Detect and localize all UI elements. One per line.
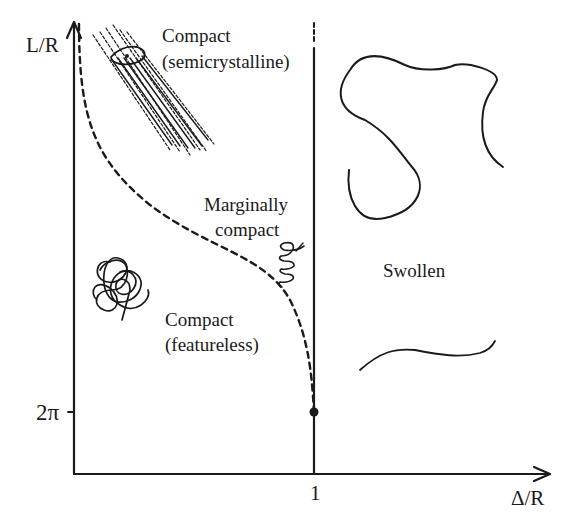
label-compact-featureless: Compact (featureless) (165, 309, 259, 356)
y-tick-label: 2π (36, 400, 60, 425)
y-axis-label: L/R (26, 33, 59, 57)
label-compact-semicrystalline: Compact (semicrystalline) (162, 25, 290, 73)
swollen-coil-icon (341, 56, 503, 219)
x-tick-label: 1 (310, 481, 321, 505)
helix-icon (279, 243, 304, 287)
swollen-chain-icon (360, 341, 495, 370)
phase-diagram: L/R Δ/R 2π 1 Compact (semicrystalline) M… (0, 0, 577, 528)
label-swollen: Swollen (383, 260, 446, 281)
critical-point-marker (310, 408, 319, 417)
x-axis-label: Δ/R (511, 486, 544, 510)
featureless-globule-icon (93, 258, 148, 320)
label-marginally-compact: Marginally compact (204, 194, 293, 240)
